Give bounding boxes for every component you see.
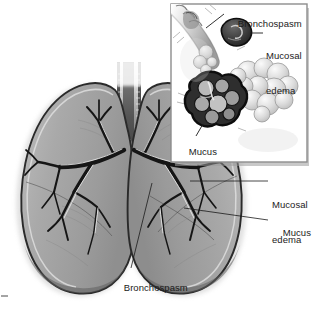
label-mucosal-edema-line1: Mucosal — [272, 199, 308, 211]
label-bronchospasm: Bronchospasm — [113, 270, 188, 305]
label-mucus-text: Mucus — [283, 227, 311, 238]
label-mucus: Mucus — [272, 215, 311, 250]
inset-label-mucus-text: Mucus — [189, 146, 217, 157]
inset-label-mucosal-edema-line2: edema — [266, 85, 302, 97]
inset-label-mucus: Mucus — [178, 134, 217, 169]
inset-label-mucosal-edema-line1: Mucosal — [266, 50, 302, 62]
inset-label-mucosal-edema: Mucosal edema — [266, 27, 302, 119]
label-bronchospasm-text: Bronchospasm — [124, 282, 188, 293]
asthma-illustration: Bronchospasm Mucosal edema Mucus Mucosal… — [0, 0, 317, 318]
